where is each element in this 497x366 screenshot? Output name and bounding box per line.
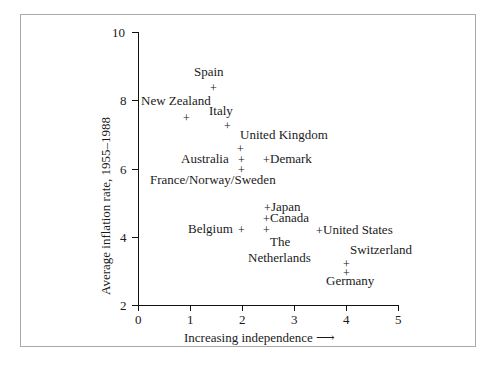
x-tick-mark-5 xyxy=(398,305,399,311)
x-tick-mark-1 xyxy=(190,305,191,311)
point-label-united-kingdom: United Kingdom xyxy=(240,128,328,142)
x-tick-label-1: 1 xyxy=(187,313,194,326)
x-tick-mark-4 xyxy=(346,305,347,311)
y-tick-label-4: 4 xyxy=(120,231,127,244)
y-tick-label-6: 6 xyxy=(120,163,127,176)
point-label-australia: Australia xyxy=(181,152,229,166)
y-tick-mark-10 xyxy=(132,32,138,33)
marker-italy: + xyxy=(224,121,231,131)
point-label-netherlands-line1: The xyxy=(270,235,290,249)
x-tick-mark-0 xyxy=(138,305,139,311)
x-tick-mark-3 xyxy=(294,305,295,311)
x-tick-label-3: 3 xyxy=(291,313,298,326)
y-tick-label-8: 8 xyxy=(120,94,127,107)
point-label-belgium: Belgium xyxy=(188,222,233,236)
point-label-canada: Canada xyxy=(270,211,309,225)
point-label-spain: Spain xyxy=(194,65,224,79)
x-tick-label-0: 0 xyxy=(135,313,142,326)
x-tick-mark-2 xyxy=(242,305,243,311)
x-tick-label-2: 2 xyxy=(239,313,246,326)
marker-belgium: + xyxy=(238,225,245,235)
x-axis-line xyxy=(138,305,398,306)
figure-frame: 10 8 6 4 2 0 1 2 3 4 5 Increasing indepe… xyxy=(20,14,476,347)
point-label-france-norway-sweden: France/Norway/Sweden xyxy=(150,173,276,187)
y-tick-label-10: 10 xyxy=(112,26,125,39)
x-tick-label-4: 4 xyxy=(343,313,350,326)
point-label-italy: Italy xyxy=(209,104,233,118)
point-label-demark: Demark xyxy=(270,152,312,166)
point-label-germany: Germany xyxy=(326,274,374,288)
y-axis-line xyxy=(138,32,139,306)
point-label-united-states: United States xyxy=(323,223,393,237)
scatter-plot: 10 8 6 4 2 0 1 2 3 4 5 Increasing indepe… xyxy=(21,15,477,348)
marker-new-zealand: + xyxy=(183,113,190,123)
y-tick-label-2: 2 xyxy=(120,299,127,312)
y-axis-title: Average inflation rate, 1955–1988 xyxy=(99,117,113,295)
y-tick-mark-6 xyxy=(132,169,138,170)
y-tick-mark-4 xyxy=(132,237,138,238)
x-tick-label-5: 5 xyxy=(395,313,402,326)
point-label-netherlands-line2: Netherlands xyxy=(248,251,311,265)
y-tick-mark-8 xyxy=(132,100,138,101)
marker-spain: + xyxy=(210,83,217,93)
marker-netherlands: + xyxy=(263,225,270,235)
marker-united-states: + xyxy=(316,226,323,236)
point-label-new-zealand: New Zealand xyxy=(141,94,211,108)
point-label-switzerland: Switzerland xyxy=(350,243,412,257)
x-axis-title: Increasing independence ⟶ xyxy=(184,331,335,345)
marker-demark: + xyxy=(263,155,270,165)
